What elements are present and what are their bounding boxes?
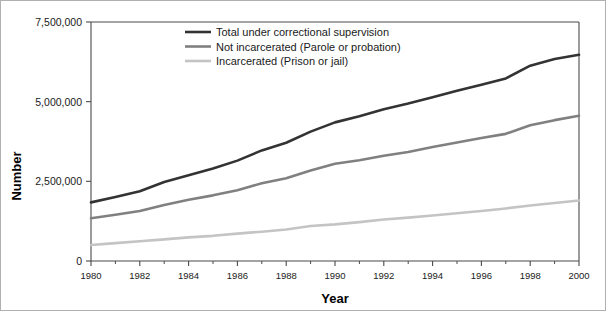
x-tick-label: 1992 (373, 270, 394, 281)
series-line-1 (91, 116, 579, 219)
data-series-group (91, 55, 579, 245)
legend-label-2: Incarcerated (Prison or jail) (216, 55, 348, 67)
chart-legend: Total under correctional supervisionNot … (185, 26, 401, 67)
x-tick-label: 1980 (80, 270, 101, 281)
series-line-2 (91, 200, 579, 245)
x-tick-label: 1986 (227, 270, 248, 281)
series-line-0 (91, 55, 579, 203)
x-tick-label: 1996 (471, 270, 492, 281)
y-tick-label: 2,500,000 (35, 175, 82, 187)
legend-label-1: Not incarcerated (Parole or probation) (216, 41, 401, 53)
y-tick-label: 7,500,000 (35, 16, 82, 28)
x-axis-title: Year (321, 291, 348, 306)
legend-label-0: Total under correctional supervision (216, 26, 389, 38)
x-tick-label: 1990 (324, 270, 345, 281)
x-axis: 1980198219841986198819901992199419961998… (80, 261, 589, 281)
x-tick-label: 2000 (568, 270, 589, 281)
y-axis: 02,500,0005,000,0007,500,000 (35, 16, 91, 267)
x-tick-label: 1982 (129, 270, 150, 281)
chart-figure: 02,500,0005,000,0007,500,000 19801982198… (0, 0, 606, 311)
y-tick-label: 0 (76, 255, 82, 267)
y-tick-label: 5,000,000 (35, 96, 82, 108)
line-chart: 02,500,0005,000,0007,500,000 19801982198… (1, 1, 606, 311)
x-tick-label: 1988 (276, 270, 297, 281)
x-tick-label: 1998 (520, 270, 541, 281)
x-tick-label: 1984 (178, 270, 199, 281)
y-axis-title: Number (9, 151, 24, 200)
x-tick-label: 1994 (422, 270, 443, 281)
